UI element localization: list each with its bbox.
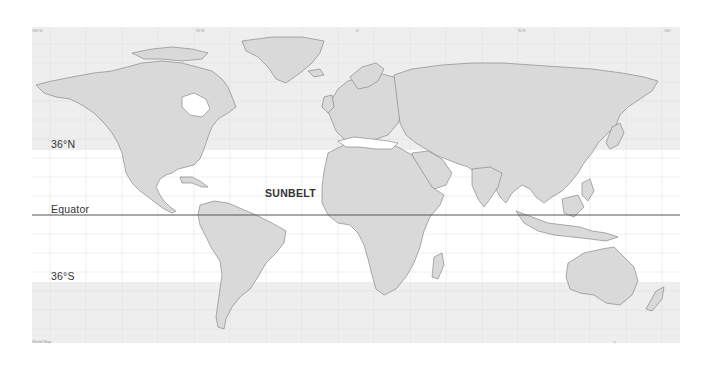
lon-tick: 90°E: [518, 29, 526, 33]
lon-tick: 180°: [664, 29, 671, 33]
map-caption: World Map: [32, 339, 51, 344]
label-36n: 36°N: [51, 138, 75, 150]
lon-tick: 0°: [356, 29, 359, 33]
copyright-notice: ©: [613, 340, 616, 345]
sunbelt-label: SUNBELT: [265, 187, 316, 199]
label-36s: 36°S: [51, 270, 75, 282]
lon-tick: 90°W: [196, 29, 205, 33]
borneo: [562, 195, 584, 217]
world-map: 36°N Equator 36°S SUNBELT: [32, 27, 680, 343]
philippines: [582, 179, 594, 201]
india: [472, 167, 502, 207]
label-equator: Equator: [51, 203, 89, 215]
madagascar: [432, 253, 444, 279]
lon-tick: 180°W: [32, 29, 43, 33]
map-canvas: [32, 27, 680, 343]
